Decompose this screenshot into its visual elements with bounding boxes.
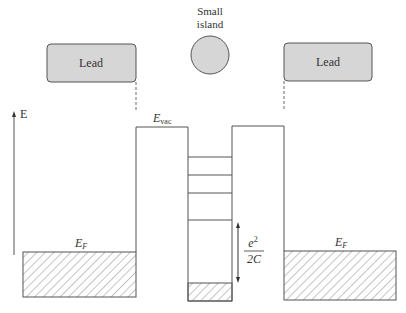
charging-energy-denominator: 2C bbox=[247, 252, 262, 266]
energy-axis-arrow-icon bbox=[12, 111, 16, 117]
coulomb-blockade-diagram: Small island Lead Lead E Evac EF EF e2 2… bbox=[0, 0, 406, 313]
charging-energy-numerator: e2 bbox=[248, 235, 257, 250]
right-fermi-label: EF bbox=[334, 235, 347, 250]
island-label-line2: island bbox=[197, 18, 224, 30]
small-island-circle bbox=[191, 36, 229, 74]
left-fermi-sea bbox=[23, 252, 136, 297]
energy-axis-label: E bbox=[20, 107, 27, 121]
left-lead-label: Lead bbox=[79, 56, 103, 70]
right-lead-label: Lead bbox=[316, 55, 340, 69]
right-fermi-sea bbox=[284, 251, 396, 300]
arrow-down-icon bbox=[236, 277, 240, 283]
right-tunnel-barrier bbox=[232, 126, 284, 301]
island-label-line1: Small bbox=[197, 5, 223, 17]
left-tunnel-barrier bbox=[136, 127, 188, 301]
vacuum-level-label: Evac bbox=[152, 111, 172, 126]
arrow-up-icon bbox=[236, 222, 240, 228]
island-occupied-states bbox=[188, 283, 232, 301]
left-fermi-label: EF bbox=[74, 236, 87, 251]
